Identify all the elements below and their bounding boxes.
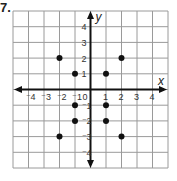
x-tick-label: ⁻3 [41, 92, 51, 102]
data-point [72, 71, 78, 77]
data-point [119, 134, 125, 140]
x-axis-left-arrow-icon [14, 86, 22, 93]
y-axis-up-arrow-icon [87, 11, 94, 19]
x-tick-label: ⁻2 [57, 92, 67, 102]
data-point [119, 55, 125, 61]
data-point [72, 102, 78, 108]
y-tick-label: 4 [82, 22, 87, 32]
x-tick-label: 4 [150, 92, 155, 102]
x-tick-label: 3 [134, 92, 139, 102]
data-point [103, 102, 109, 108]
x-tick-label: ⁻1 [72, 92, 82, 102]
data-point [103, 71, 109, 77]
data-point [57, 134, 63, 140]
y-tick-label: 1 [82, 69, 87, 79]
y-tick-label: 3 [82, 38, 87, 48]
origin-label: 0 [83, 92, 88, 102]
y-tick-label: ⁻2 [82, 116, 92, 126]
x-tick-label: 2 [119, 92, 124, 102]
x-axis-label: x [157, 74, 165, 88]
y-tick-label: ⁻4 [82, 148, 92, 158]
y-tick-label: ⁻3 [82, 132, 92, 142]
y-tick-label: 2 [82, 54, 87, 64]
coordinate-grid: xy ⁻4⁻3⁻2⁻112344321⁻1⁻2⁻3⁻40 [0, 0, 177, 181]
x-tick-label: ⁻4 [26, 92, 36, 102]
y-axis-label: y [95, 10, 103, 24]
x-tick-label: 1 [103, 92, 108, 102]
y-tick-label: ⁻1 [82, 101, 92, 111]
y-axis-down-arrow-icon [87, 160, 94, 168]
data-point [57, 55, 63, 61]
data-point [103, 118, 109, 124]
data-point [72, 118, 78, 124]
axes: xy [14, 10, 167, 168]
